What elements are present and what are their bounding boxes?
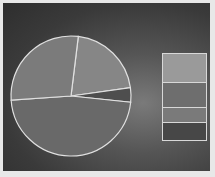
legend-swatch-3 [163,108,206,123]
pie-slice-1 [71,36,130,96]
legend [162,53,207,141]
pie-slice-4 [11,36,78,100]
legend-swatch-2 [163,83,206,108]
legend-swatch-1 [163,54,206,83]
legend-swatch-4 [163,123,206,140]
pie-slice-3 [11,96,131,156]
